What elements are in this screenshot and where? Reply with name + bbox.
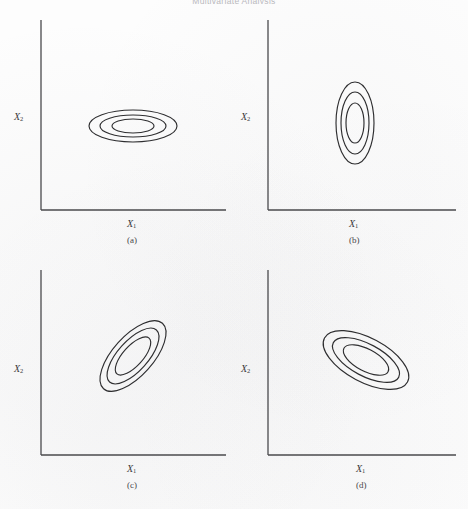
contour-ring-middle (98, 320, 167, 392)
contour-ring-inner (346, 103, 364, 143)
panel-c: X2 X1 (c) (0, 262, 234, 509)
contour-ring-middle (100, 115, 166, 137)
contour-ring-outer (89, 310, 178, 402)
panel-c-plot (0, 262, 234, 509)
contour-ring-outer (314, 319, 418, 402)
panel-a-plot (0, 8, 234, 262)
y-axis-label-d: X2 (241, 363, 250, 374)
axes-d (268, 270, 456, 455)
panel-caption-d: (d) (356, 480, 367, 490)
axes-c (41, 270, 226, 455)
contour-ring-inner (110, 331, 157, 380)
y-axis-label-b: X2 (241, 111, 250, 122)
contour-ring-outer (336, 82, 374, 164)
x-axis-label-a: X1 (127, 218, 136, 229)
contour-set-c (89, 310, 178, 402)
contour-set-b (336, 82, 374, 164)
x-axis-label-d: X1 (356, 463, 365, 474)
panel-d-plot (234, 262, 468, 509)
figure-page: Multivariate Analysis X2 X1 (a) (0, 0, 468, 509)
panel-caption-c: (c) (127, 480, 137, 490)
contour-set-a (89, 110, 177, 142)
contour-ring-middle (326, 329, 406, 392)
running-header: Multivariate Analysis (0, 0, 468, 4)
panel-caption-a: (a) (127, 235, 137, 245)
panel-caption-b: (b) (349, 235, 360, 245)
contour-ring-inner (339, 339, 393, 382)
y-axis-label-c: X2 (14, 363, 23, 374)
axes-b (268, 20, 456, 210)
contour-ring-middle (341, 92, 369, 154)
y-axis-label-a: X2 (14, 111, 23, 122)
panel-b: X2 X1 (b) (234, 8, 468, 262)
panel-d: X2 X1 (d) (234, 262, 468, 509)
contour-set-d (314, 319, 418, 402)
contour-ring-inner (112, 119, 154, 133)
x-axis-label-b: X1 (349, 218, 358, 229)
x-axis-label-c: X1 (127, 463, 136, 474)
panel-a: X2 X1 (a) (0, 8, 234, 262)
